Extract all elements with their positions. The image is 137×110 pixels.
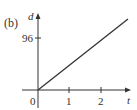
y-axis-arrow-icon	[36, 13, 41, 19]
chart-figure: (b) d 96 0 1 2 t	[0, 0, 137, 110]
chart-plot-area	[0, 0, 137, 110]
y-axis-label: d	[28, 11, 34, 22]
y-tick-label-96: 96	[22, 33, 33, 44]
x-tick-label-0: 0	[30, 96, 36, 107]
x-tick-label-2: 2	[98, 96, 104, 107]
data-line	[38, 19, 128, 90]
x-axis-label: t	[127, 95, 130, 106]
x-axis-arrow-icon	[125, 88, 131, 93]
panel-label: (b)	[4, 18, 18, 29]
x-tick-label-1: 1	[66, 96, 72, 107]
